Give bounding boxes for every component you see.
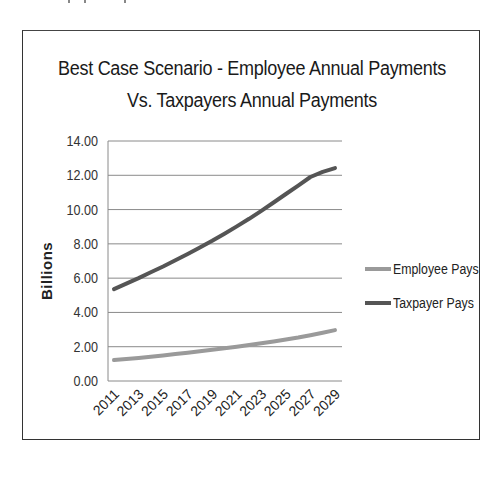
x-tick-label: 2023 — [236, 386, 269, 419]
legend-swatch-taxpayer — [365, 301, 391, 305]
y-tick-label: 8.00 — [74, 236, 98, 252]
x-axis-ticks: 2011201320152017201920212023202520272029 — [90, 386, 344, 419]
y-tick-label: 0.00 — [74, 373, 98, 389]
series-lines — [114, 168, 335, 360]
legend-label-employee: Employee Pays — [393, 261, 479, 277]
legend-swatch-employee — [365, 267, 391, 271]
x-tick-label: 2027 — [285, 386, 318, 419]
series-line-taxpayer — [114, 168, 335, 289]
y-tick-label: 2.00 — [74, 339, 98, 355]
legend: Employee Pays Taxpayer Pays — [365, 258, 490, 326]
x-tick-label: 2015 — [138, 386, 171, 419]
legend-item-employee: Employee Pays — [365, 258, 490, 280]
x-tick-label: 2013 — [113, 386, 146, 419]
y-tick-label: 6.00 — [74, 271, 98, 287]
legend-item-taxpayer: Taxpayer Pays — [365, 292, 490, 314]
x-tick-label: 2029 — [310, 386, 343, 419]
x-tick-label: 2017 — [162, 386, 195, 419]
x-tick-label: 2019 — [187, 386, 220, 419]
series-line-employee — [114, 330, 335, 360]
plot-area: 0.002.004.006.008.0010.0012.0014.00 2011… — [0, 0, 504, 490]
y-tick-label: 4.00 — [74, 305, 98, 321]
legend-label-taxpayer: Taxpayer Pays — [393, 295, 474, 311]
y-tick-label: 14.00 — [67, 133, 98, 149]
gridlines — [108, 141, 342, 381]
x-tick-label: 2025 — [261, 386, 294, 419]
x-tick-label: 2021 — [212, 386, 245, 419]
y-tick-label: 10.00 — [67, 202, 98, 218]
x-tick-label: 2011 — [90, 386, 123, 419]
y-tick-label: 12.00 — [67, 168, 98, 184]
y-axis-ticks: 0.002.004.006.008.0010.0012.0014.00 — [67, 133, 98, 389]
